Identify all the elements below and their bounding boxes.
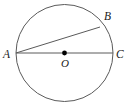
chord-segment-ab (16, 27, 100, 53)
center-point-dot (62, 51, 67, 56)
point-label-b: B (104, 11, 111, 23)
point-label-a: A (3, 49, 10, 61)
point-label-c: C (116, 49, 124, 61)
geometry-figure: A B C O (0, 0, 129, 104)
center-label-o: O (61, 58, 69, 69)
